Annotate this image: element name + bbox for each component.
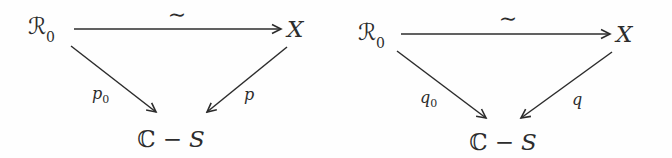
tilde-label: ∼	[168, 2, 186, 27]
map-label-q0-sub: 0	[430, 97, 437, 110]
object-R0-main: ℛ	[358, 19, 376, 45]
arrow-left	[397, 51, 486, 118]
object-C: ℂ	[469, 129, 487, 155]
map-label-q0-main: q	[420, 88, 430, 107]
object-C-minus-S: ℂ−S	[137, 126, 204, 152]
object-C: ℂ	[137, 126, 155, 152]
object-S: S	[189, 126, 205, 152]
object-R0-sub: 0	[376, 35, 385, 51]
map-label-p0-sub: 0	[102, 93, 109, 106]
map-label-p0-main: p	[92, 84, 102, 103]
object-R0: ℛ0	[358, 19, 385, 51]
math-figure: ℛ0 X ℂ−S ∼ p0 p ℛ0 X ℂ−S ∼ q0 q	[0, 0, 672, 158]
commutative-diagram-right: ℛ0 X ℂ−S ∼ q0 q	[336, 0, 672, 158]
map-label-p0: p0	[92, 84, 109, 106]
object-X: X	[285, 16, 305, 42]
map-label-p: p	[244, 85, 254, 104]
object-C-minus-S: ℂ−S	[469, 129, 536, 155]
arrow-right	[521, 52, 612, 118]
minus-sign: −	[163, 126, 182, 152]
object-R0: ℛ0	[28, 13, 55, 45]
tilde-label: ∼	[499, 6, 517, 31]
object-R0-main: ℛ	[28, 13, 46, 39]
arrow-left	[71, 46, 156, 112]
map-label-q: q	[572, 90, 582, 109]
object-R0-sub: 0	[46, 29, 55, 45]
commutative-diagram-left: ℛ0 X ℂ−S ∼ p0 p	[0, 0, 336, 158]
minus-sign: −	[495, 129, 514, 155]
object-S: S	[521, 129, 537, 155]
map-label-q0: q0	[420, 88, 437, 110]
object-X: X	[614, 21, 634, 47]
